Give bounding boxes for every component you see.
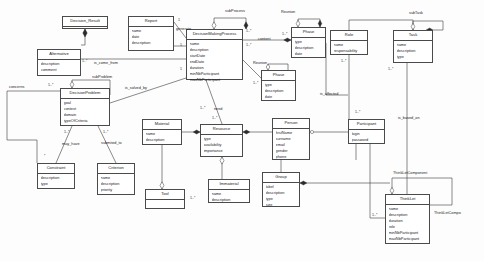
- edge-label-is_solved_by: is_solved_by: [125, 87, 147, 91]
- uml-attribute: maxNbParticipant: [190, 77, 241, 83]
- uml-class-resource[interactable]: Resourcetypeavailabilityimportance: [200, 124, 243, 157]
- edge-label-generate: generate: [176, 28, 191, 32]
- edge-phase-reunion-top: [298, 19, 320, 27]
- uml-attribute: date: [295, 51, 324, 57]
- uml-class-name: Criterion: [98, 164, 134, 174]
- uml-class-role[interactable]: Rolenameresponsability: [330, 30, 368, 55]
- uml-class-attributes: namedescriptiondurationroleminNbParticip…: [386, 205, 429, 244]
- uml-class-attributes: namedescriptionpriority: [98, 174, 134, 195]
- uml-class-decision_making_process[interactable]: DecisionMakingProcessnamedescriptionstar…: [186, 29, 243, 80]
- uml-attribute: typeOfCriteria: [64, 118, 108, 124]
- multiplicity-m-dmp-sub1: 1..*: [246, 30, 251, 34]
- multiplicity-m-dmp-sub2: 1..*: [246, 44, 251, 48]
- uml-attribute: phone: [276, 154, 308, 160]
- uml-class-attributes: nameresponsability: [331, 41, 367, 56]
- uml-class-material[interactable]: Materialnamedescription: [142, 119, 182, 145]
- uml-attribute: comment: [41, 67, 79, 73]
- uml-attribute: size: [266, 202, 298, 208]
- uml-class-attributes: descriptiontype: [38, 174, 74, 189]
- uml-class-attributes: namedescription: [143, 130, 181, 145]
- uml-class-phase_top[interactable]: Phasetypedescriptiondate: [291, 27, 326, 58]
- uml-class-attributes: [146, 200, 184, 208]
- uml-class-attributes: firstNamesurnameemailgenderphone: [273, 129, 309, 162]
- multiplicity-m-phase-1n: 1..*: [282, 33, 287, 37]
- multiplicity-m-dp-con: 1..*: [64, 131, 69, 135]
- edge-label-thinklet_component: ThinkLetComponent: [393, 172, 427, 176]
- uml-attribute: description: [146, 137, 180, 143]
- edge-label-content: content: [258, 38, 270, 42]
- edge-label-is_come_from: is_come_from: [94, 62, 118, 66]
- uml-class-attributes: namedescriptiontype: [394, 41, 432, 62]
- uml-class-decision_result[interactable]: Decision_Result: [62, 16, 108, 29]
- uml-class-immaterial[interactable]: Immaterialnamedescription: [208, 179, 250, 203]
- multiplicity-m-dmp-need: 1..*: [200, 107, 205, 111]
- edge-label-reunion_top: Reunion: [281, 11, 295, 15]
- multiplicity-m-dmp-1: 1: [180, 44, 182, 48]
- uml-class-attributes: goalcontextdomaintypeOfCriteria: [61, 99, 109, 126]
- uml-attribute: priority: [101, 187, 133, 193]
- uml-class-name: Constraint: [38, 164, 74, 174]
- uml-class-name: Role: [331, 31, 367, 41]
- edge-label-sub_problem: subProblem: [92, 76, 112, 80]
- uml-class-attributes: typeavailabilityimportance: [201, 135, 242, 156]
- uml-attribute: description: [212, 197, 248, 203]
- uml-class-constraint[interactable]: Constraintdescriptiontype: [37, 163, 75, 189]
- uml-class-attributes: descriptioncomment: [38, 60, 80, 75]
- uml-attribute: maxNbParticipant: [389, 236, 428, 242]
- edge-label-concerns: concerns: [9, 86, 24, 90]
- uml-attribute: date: [265, 94, 294, 100]
- uml-attribute: type: [397, 54, 431, 60]
- uml-class-phase_bottom[interactable]: Phasetypedescriptiondate: [261, 70, 296, 101]
- edge-label-thinklet_compo: ThinkLetCompo: [434, 212, 461, 216]
- uml-class-tool[interactable]: Tool: [145, 189, 185, 209]
- uml-class-report[interactable]: Reportnamedatedescription: [128, 16, 174, 51]
- uml-attribute: description: [132, 40, 172, 46]
- uml-class-thinklet[interactable]: ThinkLetnamedescriptiondurationroleminNb…: [385, 194, 430, 244]
- edge-label-submited_to: submited_to: [101, 142, 122, 146]
- uml-class-name: Report: [129, 17, 173, 27]
- multiplicity-m-res-1n: 1..*: [212, 117, 217, 121]
- uml-class-participant[interactable]: Participantloginpassword: [348, 119, 385, 144]
- edge-role-task-top: [349, 20, 413, 30]
- uml-attribute: type: [41, 181, 73, 187]
- uml-class-attributes: [63, 27, 107, 35]
- uml-class-name: DecisionMakingProcess: [187, 30, 242, 40]
- multiplicity-m-task-1n: 1..*: [388, 68, 393, 72]
- multiplicity-m-part-1n: 1..*: [355, 111, 360, 115]
- uml-class-name: DecisionProblem: [61, 89, 109, 99]
- multiplicity-m-tool-1n: 1..*: [190, 197, 195, 201]
- uml-class-alternative[interactable]: Alternativedescriptioncomment: [37, 49, 81, 76]
- multiplicity-m-con-s: *: [44, 155, 45, 159]
- edge-dp-is-solved-by: [110, 78, 186, 103]
- uml-class-name: Phase: [292, 28, 325, 38]
- uml-class-group[interactable]: Grouplabeldescriptiontypesize: [262, 172, 300, 207]
- uml-attribute: password: [352, 137, 383, 143]
- uml-class-attributes: typedescriptiondate: [262, 81, 295, 102]
- edge-label-is_based_on: is_based_on: [398, 117, 420, 121]
- uml-class-name: Person: [273, 119, 309, 129]
- multiplicity-m-thinklet-1n: 1..*: [372, 214, 377, 218]
- edge-label-sub_process: subProcess: [225, 10, 245, 14]
- uml-class-person[interactable]: PersonfirstNamesurnameemailgenderphone: [272, 118, 310, 160]
- uml-class-task[interactable]: Tasknamedescriptiontype: [393, 30, 433, 63]
- uml-class-name: ThinkLet: [386, 195, 429, 205]
- edge-thinklet-left: [370, 160, 385, 218]
- edge-label-reunion_bottom: Reunion: [253, 62, 267, 66]
- uml-class-name: Immaterial: [209, 180, 249, 190]
- multiplicity-m-phase-b: 1..*: [253, 82, 258, 86]
- uml-class-criterion[interactable]: Criterionnamedescriptionpriority: [97, 163, 135, 195]
- uml-class-decision_problem[interactable]: DecisionProblemgoalcontextdomaintypeOfCr…: [60, 88, 110, 126]
- uml-class-attributes: namedescription: [209, 190, 249, 205]
- multiplicity-m-dp-cri: 1..*: [103, 131, 108, 135]
- uml-class-attributes: loginpassword: [349, 130, 384, 145]
- uml-class-name: Phase: [262, 71, 295, 81]
- multiplicity-m-dp-1n: 1..*: [48, 84, 53, 88]
- uml-class-name: Material: [143, 120, 181, 130]
- uml-class-name: Decision_Result: [63, 17, 107, 27]
- uml-class-attributes: namedescriptionstartDateendDatedurationm…: [187, 40, 242, 84]
- uml-class-attributes: typedescriptiondate: [292, 38, 325, 59]
- uml-class-diagram: Decision_ResultReportnamedatedescription…: [0, 0, 484, 261]
- multiplicity-m-role-1n: 1..*: [341, 60, 346, 64]
- multiplicity-m-dmp-2: 1: [180, 68, 182, 72]
- uml-attribute: importance: [204, 148, 241, 154]
